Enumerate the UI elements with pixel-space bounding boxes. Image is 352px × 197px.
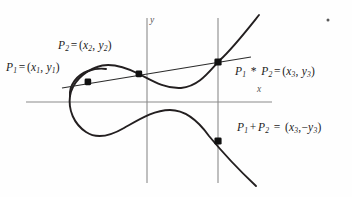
label-p1-y-sub: 1 bbox=[52, 66, 56, 75]
label-p2-y-sub: 2 bbox=[104, 44, 108, 53]
label-p2-sub: 2 bbox=[65, 44, 69, 53]
label-p2: P2=(x2, y2) bbox=[58, 40, 112, 52]
label-plus-a-sub: 1 bbox=[244, 126, 248, 135]
label-star-x: x bbox=[286, 65, 291, 77]
label-star-x-sub: 3 bbox=[292, 70, 296, 79]
label-p1: P1=(x1, y1) bbox=[6, 62, 60, 74]
label-plus-close-paren: ) bbox=[317, 121, 321, 133]
y-axis-label: y bbox=[150, 16, 154, 26]
curve-upper-branch bbox=[70, 15, 259, 96]
x-axis-label: x bbox=[257, 85, 261, 95]
curve-lower-branch bbox=[70, 96, 256, 186]
label-p1-equals: = bbox=[17, 61, 27, 73]
label-p1-close-paren: ) bbox=[56, 61, 60, 73]
label-p2-y: y bbox=[98, 39, 103, 51]
label-p2-x-sub: 2 bbox=[88, 44, 92, 53]
label-p1-plus-p2: P1+P2 = (x3,−y3) bbox=[237, 122, 321, 134]
label-plus-x-sub: 3 bbox=[294, 126, 298, 135]
curve-canvas bbox=[0, 0, 352, 197]
label-plus-equals: = bbox=[269, 121, 285, 133]
label-p1-x-sub: 1 bbox=[36, 66, 40, 75]
label-star-b: P bbox=[261, 65, 268, 77]
elliptic-curve-figure: y x P2=(x2, y2) P1=(x1, y1) P1 * P2=(x3,… bbox=[0, 0, 352, 197]
scan-artifact-dot bbox=[327, 19, 330, 22]
label-star-y-sub: 3 bbox=[307, 70, 311, 79]
label-p1-y: y bbox=[46, 61, 51, 73]
point-p1-plus-p2-marker bbox=[214, 137, 221, 144]
label-p1-sub: 1 bbox=[13, 66, 17, 75]
label-star-operator: * bbox=[246, 65, 261, 77]
point-p2-marker bbox=[136, 71, 143, 78]
label-plus-y-sub: 3 bbox=[313, 126, 317, 135]
label-plus-b-sub: 2 bbox=[265, 126, 269, 135]
label-p2-close-paren: ) bbox=[108, 39, 112, 51]
point-p1-star-p2-marker bbox=[214, 58, 221, 65]
label-star-close-paren: ) bbox=[311, 65, 315, 77]
point-p1-marker bbox=[85, 79, 92, 86]
label-p2-equals: = bbox=[69, 39, 79, 51]
label-plus-operator: + bbox=[248, 121, 258, 133]
label-star-b-sub: 2 bbox=[269, 70, 273, 79]
label-star-a-sub: 1 bbox=[242, 70, 246, 79]
label-star-equals: = bbox=[273, 65, 283, 77]
label-p1-star-p2: P1 * P2=(x3, y3) bbox=[235, 66, 315, 78]
